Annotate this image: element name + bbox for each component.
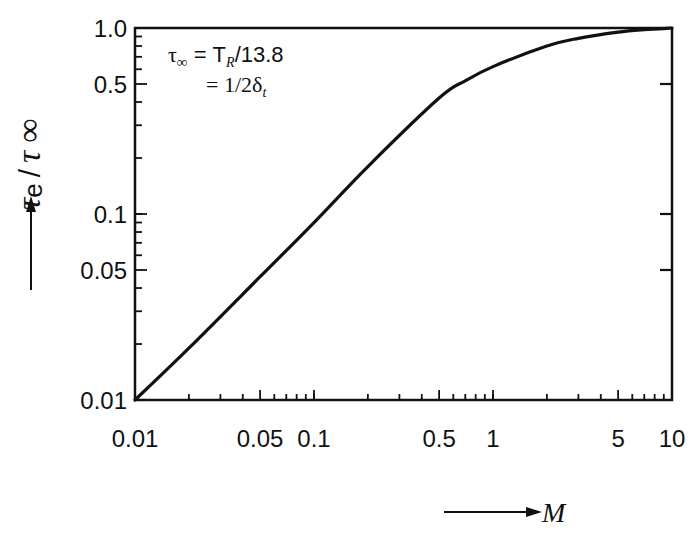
x-tick-label: 1 — [486, 425, 499, 452]
y-tick-label: 0.05 — [80, 257, 127, 284]
y-tick-label: 0.5 — [94, 71, 127, 98]
x-axis-arrow-icon — [444, 507, 542, 517]
y-tick-label: 1.0 — [94, 15, 127, 42]
axis-tick-labels: 0.010.050.10.515100.010.050.10.51.0 — [80, 15, 685, 452]
x-tick-label: 0.01 — [112, 425, 159, 452]
x-tick-label: 5 — [611, 425, 624, 452]
x-tick-label: 10 — [659, 425, 686, 452]
x-axis-title: M — [541, 497, 567, 528]
y-tick-label: 0.1 — [94, 201, 127, 228]
y-tick-label: 0.01 — [80, 387, 127, 414]
y-axis-arrow-icon — [26, 196, 36, 290]
x-tick-label: 0.5 — [422, 425, 455, 452]
x-tick-label: 0.05 — [237, 425, 284, 452]
annotation-line-2: = 1/2δt — [206, 72, 267, 100]
x-tick-label: 0.1 — [297, 425, 330, 452]
chart-svg: 0.010.050.10.515100.010.050.10.51.0 τ∞ =… — [0, 0, 694, 539]
annotation-line-1: τ∞ = TR/13.8 — [168, 42, 284, 70]
y-axis-title: τe/τ∞ — [10, 119, 48, 210]
svg-text:τe/τ∞: τe/τ∞ — [10, 119, 48, 210]
